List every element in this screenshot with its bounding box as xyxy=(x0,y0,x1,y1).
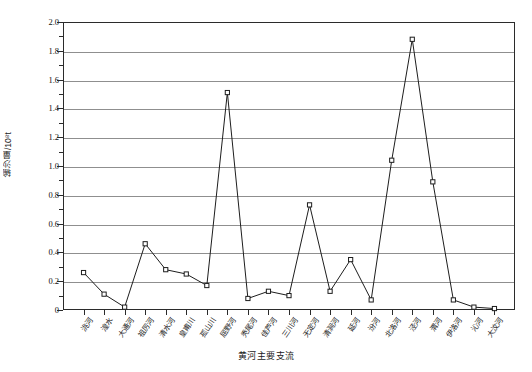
y-tick-major xyxy=(57,252,63,253)
y-tick-minor xyxy=(59,65,63,66)
x-tick-label: 皇甫川 xyxy=(178,317,197,339)
x-tick xyxy=(289,310,290,315)
x-tick xyxy=(207,310,208,315)
y-tick-minor xyxy=(59,152,63,153)
x-tick-label: 汾河 xyxy=(367,317,382,333)
data-point-marker xyxy=(205,283,209,287)
x-tick-label: 延河 xyxy=(347,317,362,333)
data-point-marker xyxy=(451,298,455,302)
x-tick-label: 秃尾河 xyxy=(240,317,259,339)
x-tick xyxy=(166,310,167,315)
y-tick-label: 2.0 xyxy=(33,18,59,27)
y-tick-label: 1.0 xyxy=(33,162,59,171)
data-point-marker xyxy=(307,203,311,207)
x-tick xyxy=(371,310,372,315)
x-tick xyxy=(310,310,311,315)
x-tick xyxy=(248,310,249,315)
x-tick xyxy=(145,310,146,315)
y-tick-label: 0 xyxy=(33,306,59,315)
x-tick xyxy=(453,310,454,315)
y-tick-minor xyxy=(59,238,63,239)
x-tick xyxy=(84,310,85,315)
data-point-marker xyxy=(349,258,353,262)
y-tick-label: 1.8 xyxy=(33,47,59,56)
y-tick-label: 1.6 xyxy=(33,76,59,85)
y-tick-major xyxy=(57,166,63,167)
y-tick-major xyxy=(57,137,63,138)
data-series-layer xyxy=(63,22,515,310)
data-point-marker xyxy=(123,305,127,309)
x-tick xyxy=(433,310,434,315)
y-tick-major xyxy=(57,281,63,282)
x-axis-title: 黄河主要支流 xyxy=(0,351,532,362)
x-tick-label: 三川河 xyxy=(281,317,300,339)
data-point-marker xyxy=(369,298,373,302)
y-tick-major xyxy=(57,22,63,23)
data-point-marker xyxy=(390,158,394,162)
data-point-marker xyxy=(328,289,332,293)
x-tick-label: 渭河 xyxy=(429,317,444,333)
y-tick-major xyxy=(57,51,63,52)
y-axis-title: 输沙量/10⁸t xyxy=(4,110,20,200)
y-tick-minor xyxy=(59,180,63,181)
data-point-marker xyxy=(287,294,291,298)
x-tick-label: 大通河 xyxy=(117,317,136,339)
y-tick-minor xyxy=(59,36,63,37)
x-tick-label: 无定河 xyxy=(302,317,321,339)
data-point-marker xyxy=(81,270,85,274)
y-tick-major xyxy=(57,224,63,225)
x-tick xyxy=(268,310,269,315)
data-point-marker xyxy=(164,268,168,272)
y-tick-minor xyxy=(59,296,63,297)
x-tick-label: 屈野河 xyxy=(219,317,238,339)
data-point-marker xyxy=(184,272,188,276)
x-tick-label: 洮河 xyxy=(80,317,95,333)
x-tick-label: 清涧河 xyxy=(322,317,341,339)
data-point-marker xyxy=(143,242,147,246)
x-tick-label: 孤山川 xyxy=(199,317,218,339)
data-point-marker xyxy=(431,180,435,184)
y-tick-label: 1.2 xyxy=(33,133,59,142)
y-tick-label: 0.6 xyxy=(33,220,59,229)
y-tick-label: 0.2 xyxy=(33,277,59,286)
x-tick-label: 佳芦河 xyxy=(260,317,279,339)
x-tick xyxy=(227,310,228,315)
data-point-marker xyxy=(225,90,229,94)
y-tick-label: 1.4 xyxy=(33,104,59,113)
x-tick-label: 伊洛河 xyxy=(445,317,464,339)
y-tick-minor xyxy=(59,94,63,95)
y-tick-minor xyxy=(59,123,63,124)
sediment-load-line-chart: 输沙量/10⁸t 00.20.40.60.81.01.21.41.61.82.0… xyxy=(0,0,532,372)
data-point-marker xyxy=(266,289,270,293)
x-tick-label: 北洛河 xyxy=(384,317,403,339)
y-tick-major xyxy=(57,108,63,109)
x-tick xyxy=(494,310,495,315)
y-tick-major xyxy=(57,195,63,196)
y-tick-major xyxy=(57,310,63,311)
x-tick xyxy=(392,310,393,315)
data-point-marker xyxy=(472,305,476,309)
x-tick xyxy=(330,310,331,315)
data-point-marker xyxy=(246,296,250,300)
x-tick xyxy=(125,310,126,315)
data-point-marker xyxy=(410,37,414,41)
y-tick-major xyxy=(57,80,63,81)
y-tick-minor xyxy=(59,267,63,268)
x-tick-label: 祖厉河 xyxy=(137,317,156,339)
series-line xyxy=(84,39,495,308)
x-tick xyxy=(186,310,187,315)
x-tick xyxy=(351,310,352,315)
x-tick-label: 清水河 xyxy=(158,317,177,339)
x-tick xyxy=(474,310,475,315)
y-tick-label: 0.8 xyxy=(33,191,59,200)
x-tick-label: 沁河 xyxy=(470,317,485,333)
x-tick xyxy=(104,310,105,315)
x-tick-label: 湟水 xyxy=(100,317,115,333)
y-tick-label: 0.4 xyxy=(33,248,59,257)
data-point-marker xyxy=(102,292,106,296)
x-tick xyxy=(412,310,413,315)
x-tick-label: 泾河 xyxy=(408,317,423,333)
y-tick-minor xyxy=(59,209,63,210)
x-tick-label: 大汶河 xyxy=(486,317,505,339)
